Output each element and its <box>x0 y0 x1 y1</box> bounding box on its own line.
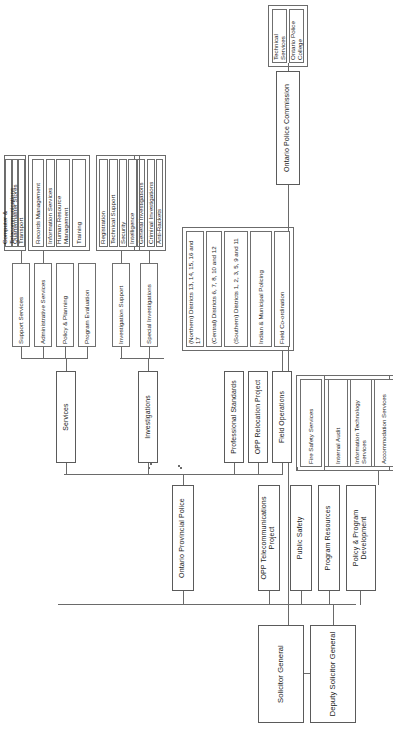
node-public-safety: Public Safety <box>290 485 312 591</box>
connector-investigations-child-bus <box>120 358 164 359</box>
connector-branchbus-to-services <box>66 463 67 475</box>
leaf-training: Training <box>72 159 86 247</box>
connector-to-program-evaluation <box>87 347 88 359</box>
node-label: OPP Relocation Project <box>254 374 262 460</box>
leaf-label: Criminal Investigations <box>148 182 155 244</box>
node-label: Solicitor General <box>277 628 286 720</box>
connector-deputy-bus <box>58 604 356 605</box>
node-field-operations: Field Operations <box>272 371 292 463</box>
leaf-criminal-investigations: Criminal Investigations <box>147 159 155 247</box>
leaf-accommodation-services: Accommodation Services <box>374 379 393 467</box>
leaf-central-districts: (Central) Districts 6, 7, 8, 10 and 12 <box>206 231 222 347</box>
leaf-label: Investigation Support <box>118 286 125 344</box>
connector-invsup-to-children <box>121 251 122 263</box>
node-services: Services <box>56 371 76 463</box>
leaf-administrative-services: Administrative Services <box>34 263 52 347</box>
node-policy-program-development: Policy & Program Development <box>346 485 376 591</box>
node-label: Program Resources <box>325 488 333 588</box>
connector-opp-branch-bus <box>64 474 282 475</box>
leaf-program-evaluation: Program Evaluation <box>78 263 96 347</box>
connector-services-to-childbus <box>66 359 67 371</box>
connector-to-policy-planning <box>65 347 66 359</box>
leaf-internal-audit: Internal Audit <box>328 379 348 467</box>
connector-to-admin-services <box>43 347 44 359</box>
leaf-opc-ontario-police-college: Ontario Police College <box>289 9 304 63</box>
leaf-special-investigations: Special Investigations <box>140 263 158 347</box>
leaf-label: Records Management <box>35 183 42 244</box>
leaf-label: Policy & Planning <box>62 296 69 344</box>
program-resources-group <box>296 469 298 471</box>
connector-branchbus-to-investigations <box>148 463 149 475</box>
connector-to-special-investigations <box>149 347 150 359</box>
leaf-label: Accommodation Services <box>381 394 388 464</box>
leaf-policy-planning: Policy & Planning <box>56 263 74 347</box>
connector-admin-to-children <box>43 251 44 263</box>
connector-specinv-to-children <box>149 251 150 263</box>
leaf-information-services: Information Services <box>46 159 55 247</box>
leaf-label: Field Co-ordination <box>279 292 286 344</box>
leaf-technical-support: Technical Support <box>109 159 118 247</box>
leaf-transport: Transport <box>18 159 25 247</box>
leaf-computer-telecommunications: Computer & Telecommunications <box>5 159 12 247</box>
node-label: Public Safety <box>297 488 305 588</box>
leaf-human-resource-management: Human Resource Management <box>56 159 70 247</box>
node-label: Services <box>62 374 70 460</box>
leaf-label: Transport <box>18 218 25 244</box>
leaf-field-co-ordination: Field Co-ordination <box>274 231 290 347</box>
leaf-security: Security <box>119 159 127 247</box>
node-label: Deputy Solicitor General <box>329 628 338 720</box>
connector-bus-to-program-resources <box>329 591 330 605</box>
leaf-indian-municipal-policing: Indian & Municipal Policing <box>250 231 272 347</box>
connector-bus-to-opp-telecom <box>269 591 270 605</box>
node-opp-relocation-project: OPP Relocation Project <box>248 371 268 463</box>
leaf-opc-technical-services: Technical Services <box>272 9 287 63</box>
chart-rotation-wrapper: Solicitor General Deputy Solicitor Gener… <box>0 0 393 751</box>
connector-branchbus-to-relocation <box>258 463 259 475</box>
node-opp-telecommunications-project: OPP Telecommunications Project <box>258 485 280 591</box>
leaf-label: Indian & Municipal Policing <box>258 270 265 344</box>
node-label: Professional Standards <box>230 374 238 460</box>
connector-publicsafety-to-children <box>378 471 379 485</box>
connector-deputy-to-bus <box>333 605 334 625</box>
leaf-label: Support Services <box>18 297 25 344</box>
leaf-label: Anti-Rackets <box>156 209 163 244</box>
leaf-investigation-support: Investigation Support <box>112 263 130 347</box>
leaf-label: (Southern) Districts 1, 2, 3, 5, 9 and 1… <box>233 238 240 344</box>
connector-services-child-bus <box>22 358 88 359</box>
connector-to-investigation-support <box>121 347 122 359</box>
leaf-label: Special Investigations <box>146 284 153 344</box>
org-chart: Solicitor General Deputy Solicitor Gener… <box>0 0 393 751</box>
leaf-label: Registration <box>100 211 107 244</box>
node-label: Investigations <box>144 374 152 460</box>
connector-bus-to-policy-dev <box>360 591 361 605</box>
leaf-label: Technical Services <box>273 12 287 60</box>
leaf-intelligence: Intelligence <box>128 159 137 247</box>
node-program-resources: Program Resources <box>318 485 340 591</box>
leaf-label: Training <box>76 222 83 244</box>
connector-support-to-children <box>21 251 22 263</box>
leaf-southern-districts: (Southern) Districts 1, 2, 3, 5, 9 and 1… <box>224 231 248 347</box>
leaf-label: Fire Safety Services <box>308 409 315 464</box>
connector-sg-to-dsg <box>304 673 310 674</box>
program-resources-children-frame <box>150 463 152 465</box>
connector-opp-to-branch-bus <box>183 475 184 485</box>
node-label: Policy & Program Development <box>353 488 369 588</box>
leaf-label: Information Technology Services <box>354 382 368 464</box>
leaf-information-technology-services: Information Technology Services <box>350 379 372 467</box>
node-solicitor-general: Solicitor General <box>258 625 304 723</box>
node-label: Ontario Provincial Police <box>179 488 187 588</box>
group-program-resources-outline <box>148 467 150 469</box>
leaf-label: Administrative Services <box>40 280 47 344</box>
leaf-label: Human Resource Management <box>56 162 70 244</box>
node-deputy-solicitor-general: Deputy Solicitor General <box>310 625 356 723</box>
leaf-records-management: Records Management <box>32 159 44 247</box>
leaf-label: Internal Audit <box>335 428 342 464</box>
leaf-registration: Registration <box>99 159 108 247</box>
connector-branchbus-to-prof-standards <box>234 463 235 475</box>
leaf-label: Information Services <box>47 188 54 244</box>
node-label: Field Operations <box>278 374 286 460</box>
leaf-label: Security <box>120 222 127 244</box>
leaf-label: Program Evaluation <box>84 290 91 344</box>
leaf-label: (Central) Districts 6, 7, 8, 10 and 12 <box>211 246 218 344</box>
connector-to-support-services <box>21 347 22 359</box>
